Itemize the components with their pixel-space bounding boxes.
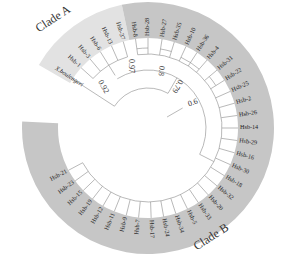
bootstrap-values: 0.920.970.80.790.6	[96, 59, 199, 108]
bootstrap-value: 0.8	[157, 66, 167, 77]
taxon-label: Hsb-14	[240, 123, 258, 130]
phylogenetic-tree: X.boulengeriHsb-1Hsb-3Hsb-6Hsb-13Hsb-37H…	[0, 0, 281, 256]
bootstrap-value: 0.92	[96, 78, 111, 95]
bootstrap-value: 0.6	[187, 96, 199, 108]
taxon-label: Hsb-17	[149, 220, 157, 238]
bootstrap-value: 0.79	[170, 78, 185, 95]
taxon-label: Hsb-28	[143, 18, 150, 36]
bootstrap-value: 0.97	[127, 59, 136, 73]
clade-label-a: Clade A	[33, 2, 74, 35]
